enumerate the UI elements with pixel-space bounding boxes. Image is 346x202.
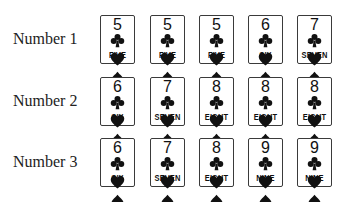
playing-card: 6 SIX: [100, 77, 135, 126]
card-rank: 8: [298, 79, 331, 95]
club-icon: [258, 33, 273, 48]
card-name: EIGHT: [249, 113, 282, 122]
spade-icon: [110, 194, 125, 202]
card-name: FIVE: [200, 51, 233, 60]
spade-icon: [160, 194, 175, 202]
card-suit: [298, 156, 331, 172]
club-icon: [209, 156, 224, 171]
playing-card: 9 NINE: [248, 138, 283, 187]
card-suit: [298, 95, 331, 111]
card-rank: 6: [101, 79, 134, 95]
card-rank: 9: [249, 140, 282, 156]
card-name: FIVE: [101, 51, 134, 60]
card-rank: 8: [200, 79, 233, 95]
playing-card: 7 SEVEN: [150, 77, 185, 126]
club-icon: [160, 156, 175, 171]
club-icon: [307, 33, 322, 48]
playing-card: 5 FIVE: [100, 15, 135, 64]
card-name: NINE: [249, 174, 282, 183]
card-suit: [249, 156, 282, 172]
card-name: FIVE: [151, 51, 184, 60]
playing-card: 5 FIVE: [199, 15, 234, 64]
hand-row-1: Number 1 5 FIVE 5: [0, 15, 346, 67]
card-suit: [298, 33, 331, 49]
card-suit: [101, 156, 134, 172]
card-name: NINE: [298, 174, 331, 183]
card-suit: [249, 33, 282, 49]
card-suit: [151, 33, 184, 49]
hand-row-2: Number 2 6 SIX 7: [0, 77, 346, 129]
card-suit: [151, 156, 184, 172]
card-rank: 9: [298, 140, 331, 156]
card-name: EIGHT: [298, 113, 331, 122]
card-name: EIGHT: [200, 113, 233, 122]
spade-icon: [209, 194, 224, 202]
playing-card: 7 SEVEN: [297, 15, 332, 64]
row-label: Number 2: [13, 92, 77, 110]
playing-card: 6 SIX: [248, 15, 283, 64]
club-icon: [258, 95, 273, 110]
playing-card: 8 EIGHT: [199, 138, 234, 187]
club-icon: [110, 33, 125, 48]
card-suit: [200, 156, 233, 172]
card-name: SIX: [249, 51, 282, 60]
card-rank: 7: [151, 140, 184, 156]
card-name: EIGHT: [200, 174, 233, 183]
card-suit: [249, 95, 282, 111]
card-suit: [101, 95, 134, 111]
playing-card: 8 EIGHT: [199, 77, 234, 126]
playing-card: 9 NINE: [297, 138, 332, 187]
card-suit: [151, 95, 184, 111]
card-suit: [200, 95, 233, 111]
card-name: SIX: [101, 174, 134, 183]
spade-icon: [258, 194, 273, 202]
playing-card: 6 SIX: [100, 138, 135, 187]
spade-icon: [307, 194, 322, 202]
club-icon: [110, 156, 125, 171]
club-icon: [209, 33, 224, 48]
hand-row-3: Number 3 6 SIX 7: [0, 138, 346, 190]
card-rank: 7: [298, 17, 331, 33]
club-icon: [160, 95, 175, 110]
card-name: SEVEN: [151, 113, 184, 122]
card-rank: 6: [101, 140, 134, 156]
card-name: SEVEN: [298, 51, 331, 60]
card-name: SIX: [101, 113, 134, 122]
card-suit: [200, 33, 233, 49]
club-icon: [307, 156, 322, 171]
club-icon: [160, 33, 175, 48]
card-rank: 6: [249, 17, 282, 33]
card-rank: 8: [200, 140, 233, 156]
club-icon: [307, 95, 322, 110]
playing-card: 5 FIVE: [150, 15, 185, 64]
row-label: Number 3: [13, 153, 77, 171]
playing-card: 8 EIGHT: [297, 77, 332, 126]
playing-card: 7 SEVEN: [150, 138, 185, 187]
club-icon: [209, 95, 224, 110]
club-icon: [110, 95, 125, 110]
card-rank: 8: [249, 79, 282, 95]
card-rank: 5: [101, 17, 134, 33]
club-icon: [258, 156, 273, 171]
card-rank: 7: [151, 79, 184, 95]
card-rank: 5: [200, 17, 233, 33]
card-suit: [101, 33, 134, 49]
card-name: SEVEN: [151, 174, 184, 183]
playing-card: 8 EIGHT: [248, 77, 283, 126]
row-label: Number 1: [13, 30, 77, 48]
card-rank: 5: [151, 17, 184, 33]
